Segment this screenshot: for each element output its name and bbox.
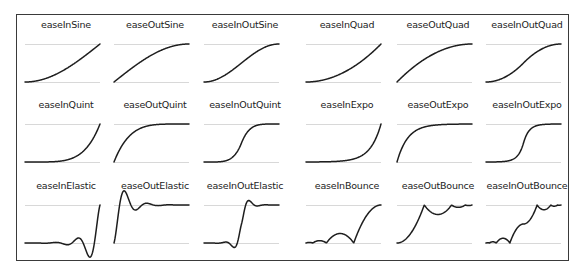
panel-ease-out-expo: easeOutExpo — [392, 96, 484, 176]
panel-ease-in-out-elastic: easeInOutElastic — [199, 177, 291, 257]
easing-curve-plot — [20, 177, 112, 257]
easing-curve — [397, 44, 472, 82]
easing-curve — [204, 201, 279, 248]
easing-curve-plot — [109, 177, 201, 257]
easing-curve — [114, 44, 189, 82]
panel-ease-out-bounce: easeOutBounce — [392, 177, 484, 257]
easing-curve — [397, 124, 472, 162]
easing-curve-plot — [392, 177, 484, 257]
easing-curve-plot — [301, 16, 393, 96]
easing-curve-plot — [199, 96, 291, 176]
easing-curve — [204, 44, 279, 82]
panel-ease-in-sine: easeInSine — [20, 16, 112, 96]
easing-curve-plot — [109, 16, 201, 96]
panel-ease-in-out-sine: easeInOutSine — [199, 16, 291, 96]
easing-curve-plot — [481, 177, 573, 257]
easing-curve-plot — [199, 177, 291, 257]
easing-curve — [25, 44, 100, 82]
easing-curve — [486, 44, 561, 82]
easing-curve-plot — [392, 16, 484, 96]
easing-curve-plot — [392, 96, 484, 176]
easing-curve — [306, 205, 381, 243]
easing-curve — [114, 124, 189, 162]
easing-curve-plot — [301, 96, 393, 176]
panel-ease-in-expo: easeInExpo — [301, 96, 393, 176]
panel-ease-in-bounce: easeInBounce — [301, 177, 393, 257]
panel-ease-out-quad: easeOutQuad — [392, 16, 484, 96]
panel-ease-in-out-expo: easeInOutExpo — [481, 96, 573, 176]
panel-ease-out-elastic: easeOutElastic — [109, 177, 201, 257]
panel-ease-out-sine: easeOutSine — [109, 16, 201, 96]
easing-curve — [25, 124, 100, 162]
panel-ease-in-quint: easeInQuint — [20, 96, 112, 176]
easing-curve — [114, 191, 189, 243]
easing-curve-plot — [481, 16, 573, 96]
panel-ease-in-elastic: easeInElastic — [20, 177, 112, 257]
easing-chart-frame: easeInSineeaseOutSineeaseInOutSineeaseIn… — [16, 14, 569, 261]
easing-curve — [306, 44, 381, 82]
panel-ease-in-out-quad: easeInOutQuad — [481, 16, 573, 96]
easing-curve — [486, 205, 561, 243]
easing-curve — [306, 124, 381, 162]
easing-curve-plot — [109, 96, 201, 176]
easing-curve — [486, 124, 561, 162]
easing-curve-plot — [199, 16, 291, 96]
panel-ease-in-out-quint: easeInOutQuint — [199, 96, 291, 176]
easing-curve-plot — [481, 96, 573, 176]
easing-curve-plot — [20, 16, 112, 96]
easing-curve — [204, 124, 279, 162]
panel-ease-out-quint: easeOutQuint — [109, 96, 201, 176]
easing-curve — [25, 205, 100, 257]
easing-curve-plot — [301, 177, 393, 257]
panel-ease-in-out-bounce: easeInOutBounce — [481, 177, 573, 257]
easing-curve — [397, 205, 472, 243]
easing-curve-plot — [20, 96, 112, 176]
panel-ease-in-quad: easeInQuad — [301, 16, 393, 96]
